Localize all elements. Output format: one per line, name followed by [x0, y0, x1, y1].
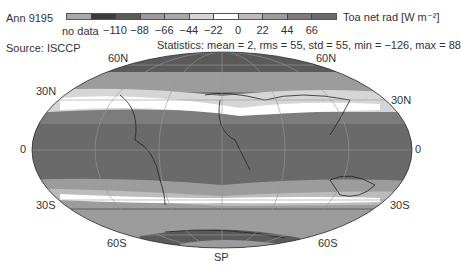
lat-label-eq-left: 0: [20, 143, 26, 155]
lat-label-30s-right: 30S: [390, 199, 410, 211]
lat-label-60s-left: 60S: [107, 237, 127, 249]
lat-label-eq-right: 0: [415, 143, 421, 155]
lat-label-60n-right: 60N: [316, 52, 336, 64]
lat-label-30n-right: 30N: [391, 94, 411, 106]
south-pole-label: SP: [214, 251, 229, 263]
lat-label-60s-right: 60S: [318, 237, 338, 249]
lat-label-30n-left: 30N: [36, 85, 56, 97]
lat-label-60n-left: 60N: [108, 52, 128, 64]
lat-label-30s-left: 30S: [36, 199, 56, 211]
